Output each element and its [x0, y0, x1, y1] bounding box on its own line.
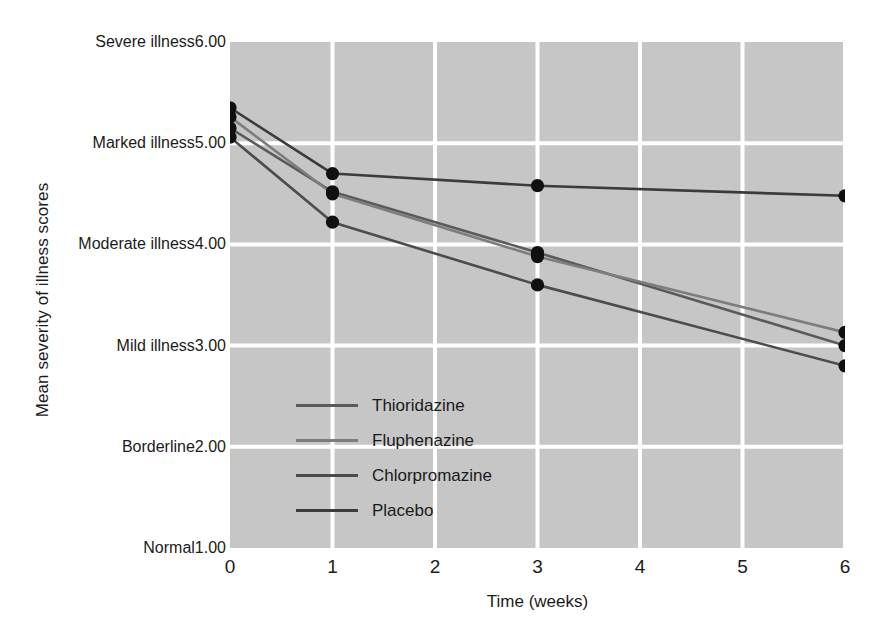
- legend-line-swatch: [296, 439, 358, 442]
- legend-item: Thioridazine: [296, 388, 596, 423]
- legend-line-swatch: [296, 404, 358, 407]
- data-point: [531, 278, 544, 291]
- x-axis-tick: 5: [723, 556, 763, 578]
- y-axis-tick: Severe illness6.00: [95, 33, 226, 51]
- data-point: [326, 167, 339, 180]
- y-axis-tick-category: Marked illness: [93, 134, 195, 152]
- y-axis-tick: Mild illness3.00: [117, 337, 226, 355]
- x-axis-tick: 0: [210, 556, 250, 578]
- y-axis-tick: Marked illness5.00: [93, 134, 226, 152]
- y-axis-tick-value: 4.00: [195, 235, 226, 253]
- chart-legend: ThioridazineFluphenazineChlorpromazinePl…: [296, 388, 596, 528]
- data-point: [326, 216, 339, 229]
- legend-item: Placebo: [296, 493, 596, 528]
- data-point: [531, 179, 544, 192]
- x-axis-tick: 2: [415, 556, 455, 578]
- x-axis-tick: 4: [620, 556, 660, 578]
- y-axis-title: Mean severity of illness scores: [33, 90, 53, 510]
- y-axis-tick-value: 1.00: [195, 539, 226, 557]
- x-axis-tick: 6: [825, 556, 865, 578]
- y-axis-tick-category: Borderline: [122, 438, 195, 456]
- data-point: [838, 339, 845, 352]
- x-axis-title: Time (weeks): [230, 592, 845, 612]
- y-axis-tick-value: 3.00: [195, 337, 226, 355]
- legend-label: Placebo: [372, 501, 433, 521]
- y-axis-tick-category: Moderate illness: [78, 235, 195, 253]
- y-axis-tick-category: Severe illness: [95, 33, 195, 51]
- y-axis-tick-category: Mild illness: [117, 337, 195, 355]
- legend-item: Fluphenazine: [296, 423, 596, 458]
- y-axis-tick-value: 6.00: [195, 33, 226, 51]
- y-axis-tick: Moderate illness4.00: [78, 235, 226, 253]
- y-axis-tick: Borderline2.00: [122, 438, 226, 456]
- y-axis-tick: Normal1.00: [143, 539, 226, 557]
- y-axis-tick-value: 5.00: [195, 134, 226, 152]
- x-axis-tick: 1: [313, 556, 353, 578]
- data-point: [838, 359, 845, 372]
- x-axis-tick: 3: [518, 556, 558, 578]
- legend-item: Chlorpromazine: [296, 458, 596, 493]
- chart-container: Mean severity of illness scores Severe i…: [0, 0, 884, 636]
- data-point: [531, 250, 544, 263]
- legend-label: Thioridazine: [372, 396, 465, 416]
- legend-line-swatch: [296, 474, 358, 477]
- legend-label: Fluphenazine: [372, 431, 474, 451]
- data-point: [838, 189, 845, 202]
- legend-label: Chlorpromazine: [372, 466, 492, 486]
- data-point: [326, 187, 339, 200]
- data-point: [838, 326, 845, 339]
- y-axis-tick-category: Normal: [143, 539, 195, 557]
- legend-line-swatch: [296, 509, 358, 512]
- y-axis-tick-value: 2.00: [195, 438, 226, 456]
